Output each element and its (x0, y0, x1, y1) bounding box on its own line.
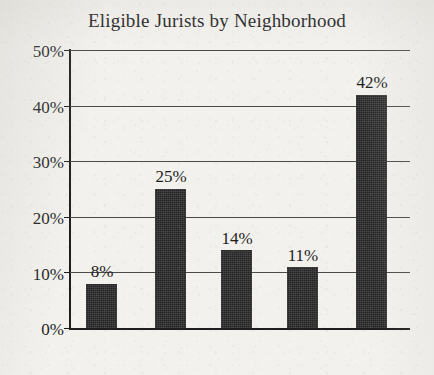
y-axis-tick-40 (64, 106, 70, 107)
bar-value-brook: 25% (136, 168, 206, 185)
bar-archway[interactable] (86, 284, 117, 329)
y-axis-tick-label-10: 10% (4, 266, 64, 283)
y-axis-tick-label-40: 40% (4, 99, 64, 116)
y-axis-tick-30 (64, 161, 70, 162)
bar-value-archway: 8% (67, 263, 137, 280)
bar-value-delmar: 11% (268, 247, 338, 264)
bar-castle[interactable] (221, 250, 252, 328)
x-axis-baseline (70, 328, 410, 330)
y-axis-tick-20 (64, 217, 70, 218)
y-axis-tick-label-30: 30% (4, 154, 64, 171)
y-axis-tick-50 (64, 50, 70, 51)
chart-title: Eligible Jurists by Neighborhood (0, 9, 434, 33)
gridline-50 (70, 50, 410, 51)
bar-delmar[interactable] (287, 267, 318, 328)
bar-value-castle: 14% (202, 230, 272, 247)
y-axis-tick-label-20: 20% (4, 210, 64, 227)
bar-brook[interactable] (155, 189, 186, 328)
bar-elm[interactable] (356, 95, 387, 329)
y-axis-tick-0 (64, 328, 70, 329)
y-axis-tick-label-0: 0% (4, 321, 64, 338)
bar-chart-figure: Eligible Jurists by Neighborhood 50% 40%… (0, 0, 434, 375)
y-axis-tick-label-50: 50% (4, 43, 64, 60)
plot-area: 8% 25% 14% 11% 42% Archway Brook Castle … (70, 50, 410, 328)
bar-value-elm: 42% (337, 74, 407, 91)
